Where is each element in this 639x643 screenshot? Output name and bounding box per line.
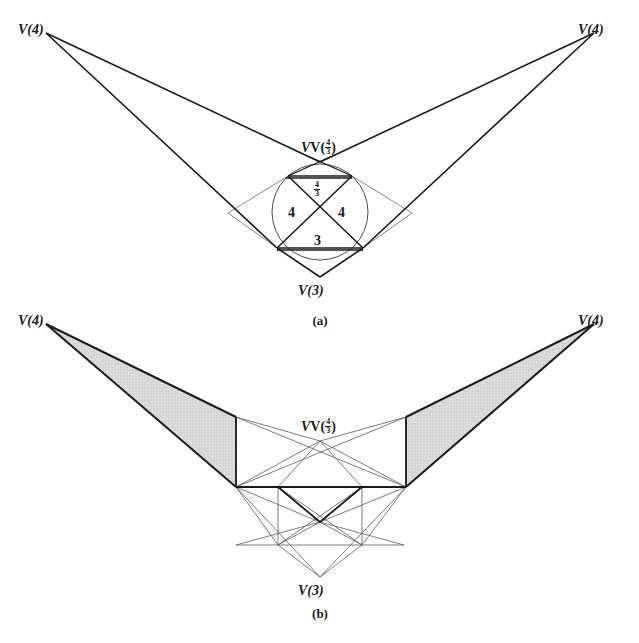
panel-b-apex-rparen: ) [331, 419, 336, 434]
panel-b-apex-lparen: V( [310, 419, 325, 434]
panel-b-apex-fraction: 43 [325, 418, 331, 435]
panel-b-label-v4-left-text: V(4) [18, 313, 44, 328]
panel-a-apex-rparen: ) [331, 140, 336, 155]
panel-b-label-v4-right: V(4) [578, 313, 604, 329]
panel-a-inner-fraction: 4 3 [314, 181, 320, 198]
panel-a-edge-label-left: 4 [288, 205, 295, 221]
panel-b-apex-fraction-denominator: 3 [325, 427, 331, 435]
panel-a-caption: (a) [312, 313, 327, 328]
panel-a-apex-fraction: 43 [325, 139, 331, 156]
panel-a-edge-label-right-text: 4 [338, 205, 345, 220]
geometry-figure-svg: (a) [0, 0, 639, 643]
panel-a-label-v3: V(3) [298, 283, 324, 299]
panel-a-label-v4-left-text: V(4) [18, 22, 44, 37]
panel-a-apex-v: V [301, 140, 310, 155]
panel-a-inner-fraction-denominator: 3 [314, 190, 320, 198]
panel-a-label-apex: VV(43) [301, 140, 336, 157]
panel-b-caption: (b) [312, 606, 328, 621]
panel-a-label-v4-left: V(4) [18, 22, 44, 38]
panel-a-label-v4-right-text: V(4) [578, 22, 604, 37]
panel-b-label-v4-left: V(4) [18, 313, 44, 329]
panel-a-apex-fraction-denominator: 3 [325, 148, 331, 156]
panel-a-edge-label-base-text: 3 [314, 233, 321, 248]
panel-b-label-apex: VV(43) [301, 419, 336, 436]
figure-root: (a) [0, 0, 639, 643]
panel-a-edge-label-right: 4 [338, 205, 345, 221]
panel-a-edge-label-left-text: 4 [288, 205, 295, 220]
panel-b-label-v4-right-text: V(4) [578, 313, 604, 328]
panel-b-label-v3: V(3) [298, 583, 324, 599]
panel-a-label-v3-text: V(3) [298, 283, 324, 298]
panel-a-apex-lparen: V( [310, 140, 325, 155]
panel-a-edge-label-base: 3 [314, 233, 321, 249]
panel-b-label-v3-text: V(3) [298, 583, 324, 598]
panel-a-label-v4-right: V(4) [578, 22, 604, 38]
panel-b-apex-v: V [301, 419, 310, 434]
